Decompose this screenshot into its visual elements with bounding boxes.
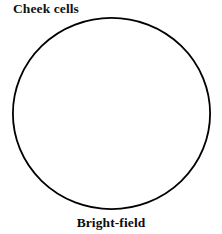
illumination-technique-text: Bright-field [77, 215, 146, 230]
field-of-view-circle [0, 0, 222, 234]
field-of-view-outline [13, 18, 210, 209]
microscopy-figure: Cheek cells Bright-field [0, 0, 222, 234]
illumination-technique-label: Bright-field [0, 215, 222, 231]
